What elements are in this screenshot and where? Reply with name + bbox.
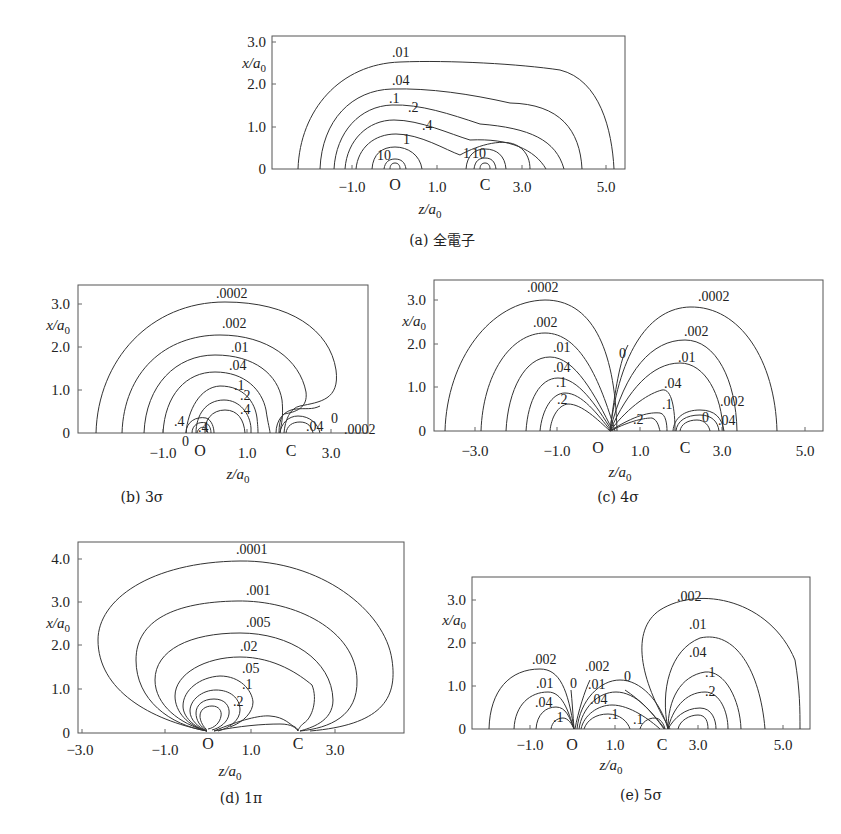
y-tick-label: 3.0 [51, 594, 70, 610]
x-axis-label: z/a0 [598, 757, 623, 776]
x-tick-label: 1.0 [238, 445, 257, 461]
x-tick-label: 1.0 [631, 443, 650, 459]
contour-label: .005 [246, 615, 271, 630]
y-tick-label: 1.0 [247, 119, 266, 135]
contour-label: .002 [532, 652, 557, 667]
contour-label: .01 [689, 617, 707, 632]
y-tick-label: 2.0 [247, 76, 266, 92]
atom-label-o: O [194, 442, 206, 459]
contour-label: .002 [684, 324, 709, 339]
x-tick-label: 5.0 [796, 443, 815, 459]
x-tick-label: −3.0 [66, 742, 93, 758]
x-axis-label: z/a0 [225, 466, 250, 485]
atom-label-c: C [657, 736, 668, 753]
contour-label: .002 [585, 659, 610, 674]
contour-label: .04 [718, 413, 736, 428]
y-ticks [272, 42, 276, 127]
x-tick-label: 1.0 [242, 742, 261, 758]
x-tick-label: 5.0 [774, 737, 793, 753]
contour-label: .4 [422, 118, 433, 133]
x-tick-label: −1.0 [151, 742, 178, 758]
panel-e: −1.0 1.0 3.0 5.0 0 1.0 2.0 3.0 x/a0 z/a0… [441, 577, 810, 803]
contour-label: .04 [229, 358, 247, 373]
contour-label: .1 [389, 91, 400, 106]
y-tick-label: 3.0 [447, 592, 466, 608]
atom-label-c: C [480, 176, 491, 193]
y-tick-label: 2.0 [51, 637, 70, 653]
y-tick-label: 1.0 [51, 382, 70, 398]
contour-lines [445, 300, 777, 431]
contour-label: .04 [590, 692, 608, 707]
y-tick-label: 0 [63, 725, 71, 741]
contour-label: .001 [246, 583, 271, 598]
contour-label: .0002 [344, 422, 376, 437]
panel-caption: (a) 全電子 [409, 232, 475, 248]
contour-label: 1 [403, 132, 410, 147]
y-tick-label: 0 [459, 721, 467, 737]
panel-a: −1.0 1.0 3.0 5.0 0 1.0 2.0 3.0 x/a0 z/a0… [241, 34, 625, 248]
contour-label: .01 [678, 350, 696, 365]
y-tick-label: 3.0 [247, 34, 266, 50]
atom-label-c: C [680, 439, 691, 456]
y-tick-label: 2.0 [407, 336, 426, 352]
atom-label-o: O [202, 735, 214, 752]
atom-label-c: C [293, 735, 304, 752]
contour-label: .04 [553, 360, 571, 375]
contour-label: .02 [240, 639, 258, 654]
panel-caption: (d) 1π [220, 790, 262, 806]
contour-label: 0 [619, 346, 626, 361]
y-tick-label: 2.0 [447, 635, 466, 651]
atom-label-c: C [286, 442, 297, 459]
y-axis-label: x/a0 [45, 615, 70, 634]
contour-label: .2 [233, 694, 244, 709]
x-tick-label: 1.0 [606, 737, 625, 753]
panel-c: −3.0 −1.0 1.0 3.0 5.0 0 1.0 2.0 3.0 x/a0… [401, 280, 823, 505]
y-tick-label: 1.0 [51, 681, 70, 697]
atom-label-o: O [389, 176, 401, 193]
y-axis-label: x/a0 [45, 317, 70, 336]
contour-label: .01 [231, 340, 249, 355]
contour-label: .0002 [698, 289, 730, 304]
plot-frame [434, 280, 823, 431]
x-tick-label: 1.0 [428, 179, 447, 195]
contour-label: .0002 [216, 286, 248, 301]
contour-label: .1 [556, 375, 567, 390]
y-axis-label: x/a0 [241, 55, 266, 74]
contour-label: .05 [242, 661, 260, 676]
y-tick-label: 1.0 [407, 379, 426, 395]
plot-frame [272, 36, 625, 169]
contour-label: .002 [533, 315, 558, 330]
x-ticks [475, 427, 805, 431]
y-tick-label: 1.0 [447, 678, 466, 694]
x-axis-label: z/a0 [217, 763, 242, 782]
panel-d: −3.0 −1.0 1.0 3.0 0 1.0 2.0 3.0 4.0 x/a0… [45, 542, 404, 806]
contour-label: 1 [463, 146, 470, 161]
contour-label: .01 [588, 677, 606, 692]
x-tick-label: 5.0 [597, 179, 616, 195]
contour-label: .2 [633, 412, 644, 427]
contour-label: .4 [174, 414, 185, 429]
x-axis-label: z/a0 [417, 201, 442, 220]
contour-label: .1 [608, 707, 619, 722]
contour-label: .04 [535, 695, 553, 710]
contour-label: .2 [240, 388, 251, 403]
contour-label: .1 [633, 712, 644, 727]
x-tick-label: −1.0 [338, 179, 365, 195]
contour-label: 0 [331, 411, 338, 426]
y-tick-label: 4.0 [51, 551, 70, 567]
contour-label: .0001 [236, 542, 268, 557]
contour-label: .01 [536, 676, 554, 691]
contour-label: .2 [705, 684, 716, 699]
x-tick-label: −1.0 [543, 443, 570, 459]
contour-label: .0002 [527, 280, 559, 295]
plot-frame [472, 577, 810, 729]
contour-label: 0 [570, 676, 577, 691]
panel-caption: (e) 5σ [620, 787, 663, 803]
plot-frame [78, 285, 368, 433]
atom-label-o: O [566, 736, 578, 753]
y-tick-label: 3.0 [407, 292, 426, 308]
x-axis-label: z/a0 [607, 464, 632, 483]
y-axis-label: x/a0 [441, 612, 466, 631]
y-ticks [78, 304, 82, 390]
x-tick-label: 3.0 [513, 179, 532, 195]
